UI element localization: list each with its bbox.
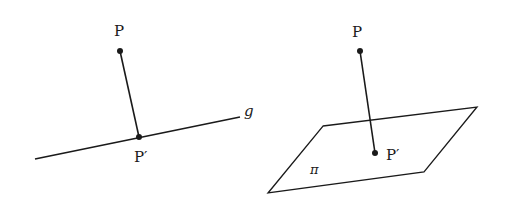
label-p-right: P	[352, 23, 362, 41]
point-p-right	[357, 48, 363, 54]
label-p-left: P	[114, 22, 124, 40]
plane-pi	[268, 107, 477, 193]
point-p-prime-left	[136, 134, 142, 140]
perpendicular-segment-right	[360, 51, 375, 153]
label-p-prime-left: P′	[134, 148, 148, 166]
point-p-left	[117, 48, 123, 54]
projection-diagram: P P′ g P P′ π	[0, 0, 511, 203]
perpendicular-segment-left	[120, 51, 139, 137]
point-p-prime-right	[372, 150, 378, 156]
label-pi: π	[309, 162, 319, 177]
label-g: g	[244, 102, 254, 120]
left-figure-line-projection: P P′ g	[35, 22, 254, 166]
label-p-prime-right: P′	[386, 146, 400, 164]
right-figure-plane-projection: P P′ π	[268, 23, 477, 193]
